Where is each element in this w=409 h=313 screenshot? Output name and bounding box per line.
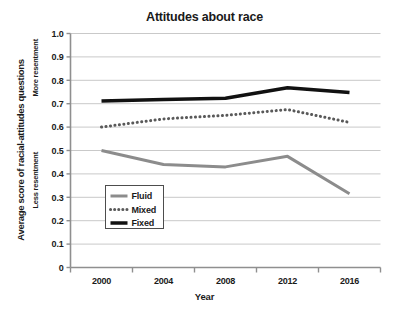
chart-container: Attitudes about race Average score of ra… — [0, 0, 409, 313]
y-axis — [67, 34, 71, 268]
x-axis — [71, 268, 381, 273]
y-tick-label: 0.5 — [52, 146, 64, 156]
y-tick-label: 0.1 — [52, 239, 64, 249]
y-tick-label: 0.9 — [52, 52, 64, 62]
legend: FluidMixedFixed — [106, 186, 164, 229]
legend-label-fixed: Fixed — [132, 218, 155, 228]
y-tick-label: 0.6 — [52, 122, 64, 132]
y-tick-label: 0.3 — [52, 193, 64, 203]
y-tick-label: 0.8 — [52, 76, 64, 86]
series-line-fixed — [102, 88, 350, 101]
series-line-mixed — [102, 110, 350, 128]
plot-area: 00.10.20.30.40.50.60.70.80.91.0 20002004… — [0, 0, 409, 313]
y-tick-label: 1.0 — [52, 29, 64, 39]
y-tick-labels: 00.10.20.30.40.50.60.70.80.91.0 — [52, 29, 64, 273]
legend-label-mixed: Mixed — [132, 205, 157, 215]
y-tick-label: 0.4 — [52, 169, 64, 179]
x-tick-label: 2004 — [154, 276, 173, 286]
x-tick-label: 2012 — [278, 276, 297, 286]
y-tick-label: 0.7 — [52, 99, 64, 109]
x-tick-label: 2008 — [216, 276, 235, 286]
legend-label-fluid: Fluid — [132, 191, 153, 201]
y-tick-label: 0.2 — [52, 216, 64, 226]
x-tick-labels: 20002004200820122016 — [92, 276, 359, 286]
x-tick-label: 2000 — [92, 276, 111, 286]
y-tick-label: 0 — [59, 263, 64, 273]
x-tick-label: 2016 — [340, 276, 359, 286]
